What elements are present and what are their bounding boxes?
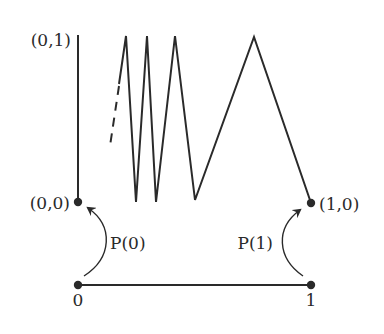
right-point — [307, 199, 315, 207]
label-interval-start: 0 — [73, 290, 84, 310]
path-arrow-p0 — [84, 208, 106, 276]
interval-start-point — [74, 281, 82, 289]
label-right-point: (1,0) — [319, 194, 359, 214]
topologist-sine-curve-diagram: (0,1) (0,0) (1,0) 0 1 P(0) P(1) — [0, 0, 384, 334]
label-path0: P(0) — [110, 233, 146, 253]
label-interval-end: 1 — [306, 290, 317, 310]
zigzag-curve — [119, 36, 311, 203]
interval-end-point — [307, 281, 315, 289]
label-origin: (0,0) — [30, 193, 70, 213]
label-top-left: (0,1) — [31, 30, 71, 50]
path-arrow-p1 — [282, 210, 303, 276]
label-path1: P(1) — [237, 233, 273, 253]
dashed-continuation — [110, 86, 119, 146]
origin-point — [74, 198, 82, 206]
